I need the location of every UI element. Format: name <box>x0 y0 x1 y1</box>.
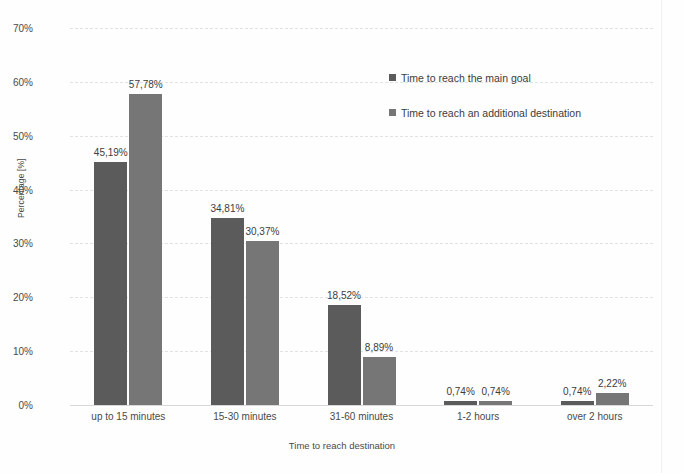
chart-legend: Time to reach the main goal Time to reac… <box>389 60 581 130</box>
bar <box>129 94 162 405</box>
y-axis-tick-label: 40% <box>0 184 33 195</box>
y-axis-tick-label: 70% <box>0 23 33 34</box>
x-axis-tick-label: over 2 hours <box>525 411 665 422</box>
bar <box>561 401 594 405</box>
y-axis-tick-label: 20% <box>0 292 33 303</box>
bar <box>94 162 127 405</box>
gridline <box>70 28 653 29</box>
legend-item-additional-destination: Time to reach an additional destination <box>389 95 581 130</box>
y-axis-tick-label: 60% <box>0 76 33 87</box>
bar-value-label: 0,74% <box>481 386 509 397</box>
legend-swatch-icon-main-goal <box>389 74 396 81</box>
bar <box>328 305 361 405</box>
y-axis-tick-label: 10% <box>0 346 33 357</box>
bar-value-label: 30,37% <box>245 226 279 237</box>
bar-value-label: 0,74% <box>446 386 474 397</box>
bar-value-label: 8,89% <box>365 342 393 353</box>
legend-label-main-goal: Time to reach the main goal <box>401 72 531 84</box>
x-axis-label: Time to reach destination <box>0 440 684 451</box>
axis-baseline <box>70 405 653 406</box>
bar <box>444 401 477 405</box>
bar-chart: Percentage [%] Time to reach destination… <box>0 0 684 473</box>
y-axis-tick-label: 50% <box>0 130 33 141</box>
legend-swatch-icon-additional-destination <box>389 109 396 116</box>
bar-value-label: 57,78% <box>129 79 163 90</box>
legend-label-additional-destination: Time to reach an additional destination <box>401 107 581 119</box>
bar-value-label: 2,22% <box>598 378 626 389</box>
y-axis-tick-label: 30% <box>0 238 33 249</box>
bar <box>596 393 629 405</box>
bar-value-label: 34,81% <box>210 203 244 214</box>
page-edge-line <box>661 0 662 473</box>
bar <box>246 241 279 405</box>
y-axis-tick-label: 0% <box>0 400 33 411</box>
bar <box>479 401 512 405</box>
bar-value-label: 0,74% <box>563 386 591 397</box>
bar-value-label: 18,52% <box>327 290 361 301</box>
bar <box>363 357 396 405</box>
legend-item-main-goal: Time to reach the main goal <box>389 60 581 95</box>
bar-value-label: 45,19% <box>94 147 128 158</box>
bar <box>211 218 244 405</box>
